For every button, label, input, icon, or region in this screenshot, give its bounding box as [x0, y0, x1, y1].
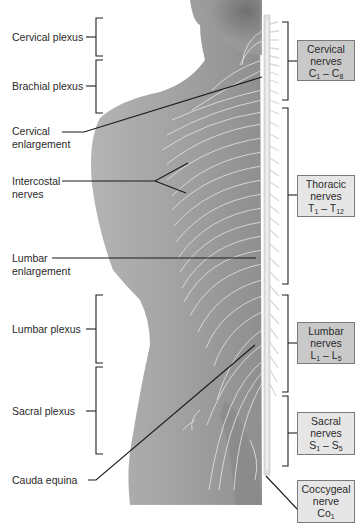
label-sacral-plexus: Sacral plexus: [12, 405, 75, 418]
box-sacral-line2: nerves: [298, 427, 354, 439]
box-lumbar-line1: Lumbar: [298, 325, 354, 337]
box-lumbar-line2: nerves: [298, 337, 354, 349]
nerve-roots: [270, 22, 279, 396]
box-coccygeal-line2: nerve: [298, 495, 354, 507]
box-cervical-line1: Cervical: [298, 43, 354, 55]
box-sacral-line1: Sacral: [298, 415, 354, 427]
right-brackets: [282, 22, 297, 466]
box-lumbar-nerves: Lumbar nerves L1 – L5: [297, 322, 355, 364]
box-cervical-line2: nerves: [298, 55, 354, 67]
box-cervical-range: C1 – C8: [298, 67, 354, 83]
label-intercostal-line1: Intercostal: [12, 175, 60, 188]
spinal-nerves-diagram: Cervical plexus Brachial plexus Cervical…: [0, 0, 363, 532]
label-brachial-plexus: Brachial plexus: [12, 80, 83, 93]
box-lumbar-range: L1 – L5: [298, 349, 354, 365]
box-sacral-nerves: Sacral nerves S1 – S5: [297, 412, 355, 455]
left-brackets: [86, 18, 103, 454]
label-cauda-equina: Cauda equina: [12, 474, 77, 487]
box-sacral-range: S1 – S5: [298, 439, 354, 455]
box-thoracic-line2: nerves: [298, 190, 354, 202]
box-thoracic-nerves: Thoracic nerves T1 – T12: [297, 175, 355, 217]
box-cervical-nerves: Cervical nerves C1 – C8: [297, 40, 355, 81]
label-lumbar-enlargement-line2: enlargement: [12, 265, 70, 278]
label-cervical-enlargement-line1: Cervical: [12, 125, 70, 138]
label-intercostal-nerves: Intercostal nerves: [12, 175, 60, 200]
box-coccygeal-line1: Coccygeal: [298, 483, 354, 495]
label-lumbar-enlargement-line1: Lumbar: [12, 252, 70, 265]
label-lumbar-enlargement: Lumbar enlargement: [12, 252, 70, 277]
label-cervical-enlargement-line2: enlargement: [12, 138, 70, 151]
box-coccygeal-range: Co1: [298, 507, 354, 523]
label-lumbar-plexus: Lumbar plexus: [12, 323, 81, 336]
box-thoracic-line1: Thoracic: [298, 178, 354, 190]
box-thoracic-range: T1 – T12: [298, 202, 354, 218]
label-intercostal-line2: nerves: [12, 188, 60, 201]
label-cervical-enlargement: Cervical enlargement: [12, 125, 70, 150]
label-cervical-plexus: Cervical plexus: [12, 31, 83, 44]
box-coccygeal-nerve: Coccygeal nerve Co1: [297, 480, 355, 523]
